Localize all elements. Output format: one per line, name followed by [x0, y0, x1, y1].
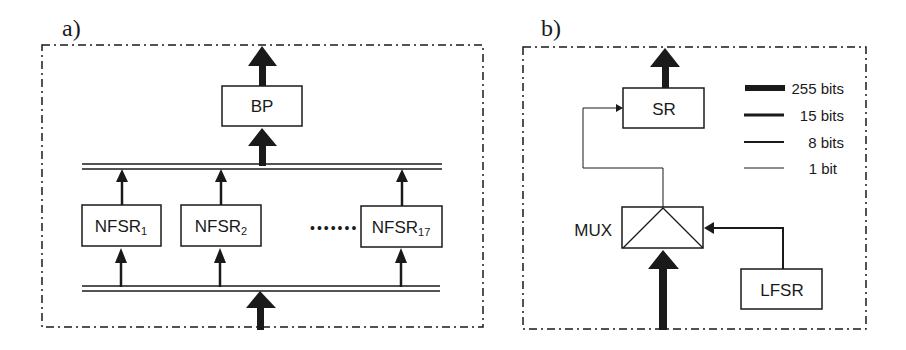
mux-label: MUX	[574, 221, 612, 240]
sr-block: SR	[623, 88, 704, 128]
svg-text:1 bit: 1 bit	[809, 160, 838, 177]
panel-a: a) BP NFSR1	[42, 15, 483, 330]
lfsr-to-mux-line	[704, 222, 783, 269]
legend-item-1-bit: 1 bit	[744, 160, 838, 177]
panel-a-label: a)	[62, 15, 81, 41]
bit-width-legend: 255 bits 15 bits 8 bits 1 bit	[744, 80, 844, 177]
nfsr-1-subscript: 1	[141, 225, 147, 237]
sr-output-arrow	[650, 48, 680, 88]
bus-to-bp-arrow	[248, 128, 277, 166]
nfsr-2-block: NFSR2	[181, 169, 261, 287]
lower-bus	[82, 286, 440, 291]
nfsr-1-block: NFSR1	[82, 169, 161, 287]
diagram-canvas: a) BP NFSR1	[0, 0, 906, 350]
ellipsis: •••••••	[310, 220, 358, 236]
bp-output-arrow	[248, 46, 277, 86]
svg-text:255 bits: 255 bits	[791, 80, 844, 97]
input-arrow-a	[246, 291, 276, 330]
nfsr-17-subscript: 17	[418, 226, 430, 238]
upper-bus	[82, 164, 442, 169]
lfsr-label: LFSR	[760, 281, 803, 300]
panel-b: b) SR MUX LFSR	[523, 15, 866, 330]
input-arrow-b	[648, 250, 679, 330]
legend-item-15-bits: 15 bits	[744, 107, 844, 124]
sr-label: SR	[652, 100, 676, 119]
bp-block: BP	[222, 86, 302, 126]
bp-label: BP	[251, 97, 274, 116]
nfsr-17-label: NFSR	[372, 218, 418, 237]
svg-text:NFSR2: NFSR2	[195, 217, 247, 237]
panel-b-label: b)	[541, 15, 561, 41]
svg-text:NFSR1: NFSR1	[95, 217, 147, 237]
mux-block: MUX	[574, 207, 703, 248]
nfsr-2-label: NFSR	[195, 217, 241, 236]
legend-item-255-bits: 255 bits	[745, 80, 844, 97]
nfsr-2-subscript: 2	[241, 225, 247, 237]
svg-text:15 bits: 15 bits	[800, 107, 844, 124]
legend-item-8-bits: 8 bits	[744, 134, 844, 151]
nfsr-1-label: NFSR	[95, 217, 141, 236]
nfsr-17-block: NFSR17	[361, 169, 442, 287]
svg-text:8 bits: 8 bits	[808, 134, 844, 151]
lfsr-block: LFSR	[741, 269, 822, 309]
